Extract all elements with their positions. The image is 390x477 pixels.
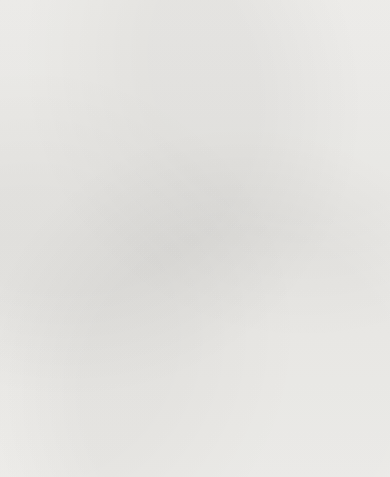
plot-canvas	[0, 0, 390, 477]
scatter-plot-figure	[0, 0, 390, 477]
